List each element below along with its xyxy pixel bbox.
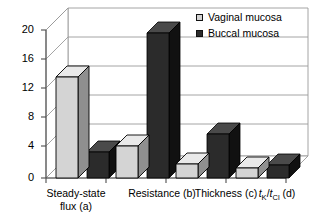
panel-suffix-d: (d) <box>280 187 296 199</box>
subscript-cl: Cl <box>272 193 279 202</box>
legend-item-buccal-mucosa: Buccal mucosa <box>196 25 321 41</box>
y-axis <box>41 30 46 178</box>
bar-chart: 20 16 12 8 4 0 Steady-state flux (a) Res… <box>0 0 327 223</box>
legend-swatch-icon-vaginal <box>196 14 203 21</box>
x-label-line2: flux (a) <box>60 200 92 212</box>
x-tick-label-transport-number-ratio: tK/tCl (d) <box>238 187 316 204</box>
y-tick-label-20: 20 <box>12 24 34 35</box>
x-label-line1: Steady-state <box>47 187 106 199</box>
bar-buccal-3 <box>207 123 240 178</box>
y-tick-label-12: 12 <box>12 82 34 93</box>
y-tick-label-8: 8 <box>12 111 34 122</box>
bar-vaginal-2 <box>116 135 149 178</box>
x-tick-label-steady-state-flux: Steady-state flux (a) <box>28 187 124 212</box>
y-tick-label-16: 16 <box>12 53 34 64</box>
legend-label-vaginal: Vaginal mucosa <box>208 12 282 23</box>
y-tick-label-4: 4 <box>12 140 34 151</box>
y-tick-label-0: 0 <box>12 172 34 183</box>
legend-label-buccal: Buccal mucosa <box>208 28 279 39</box>
chart-legend: Vaginal mucosa Buccal mucosa <box>196 9 321 41</box>
bar-vaginal-1 <box>56 66 89 178</box>
bar-buccal-2 <box>147 22 180 178</box>
legend-swatch-icon-buccal <box>196 30 203 37</box>
bar-buccal-1 <box>87 141 120 178</box>
x-axis <box>46 178 286 183</box>
legend-item-vaginal-mucosa: Vaginal mucosa <box>196 9 321 25</box>
